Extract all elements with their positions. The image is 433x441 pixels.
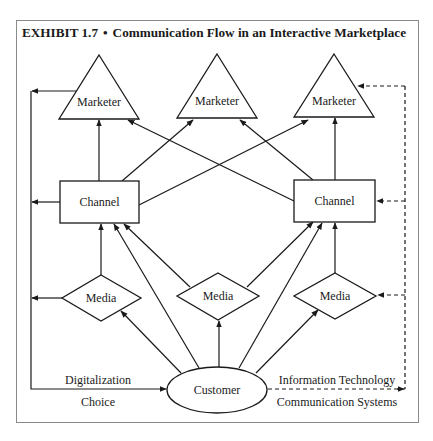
marketer-right-label: Marketer	[312, 94, 356, 108]
marketer-left: Marketer	[59, 55, 139, 119]
customer-label: Customer	[194, 383, 241, 397]
marketer-center: Marketer	[177, 54, 257, 118]
media-right: Media	[294, 273, 376, 319]
media-right-label: Media	[320, 289, 351, 303]
marketer-left-label: Marketer	[77, 95, 121, 109]
right-feedback-loop	[268, 86, 405, 389]
label-choice: Choice	[81, 395, 115, 409]
channel-left-label: Channel	[80, 195, 121, 209]
communication-flow-diagram: Marketer Marketer Marketer Channel Chann…	[0, 0, 433, 441]
label-information-technology: Information Technology	[279, 373, 396, 387]
customer: Customer	[167, 367, 267, 413]
label-communication-systems: Communication Systems	[277, 395, 398, 409]
media-center: Media	[177, 273, 259, 320]
media-left-label: Media	[86, 291, 117, 305]
marketer-center-label: Marketer	[195, 94, 239, 108]
channel-right-label: Channel	[315, 194, 356, 208]
label-digitalization: Digitalization	[65, 373, 131, 387]
media-left: Media	[62, 275, 141, 321]
channel-left: Channel	[60, 181, 139, 223]
media-center-label: Media	[203, 289, 234, 303]
channel-right: Channel	[294, 180, 375, 222]
